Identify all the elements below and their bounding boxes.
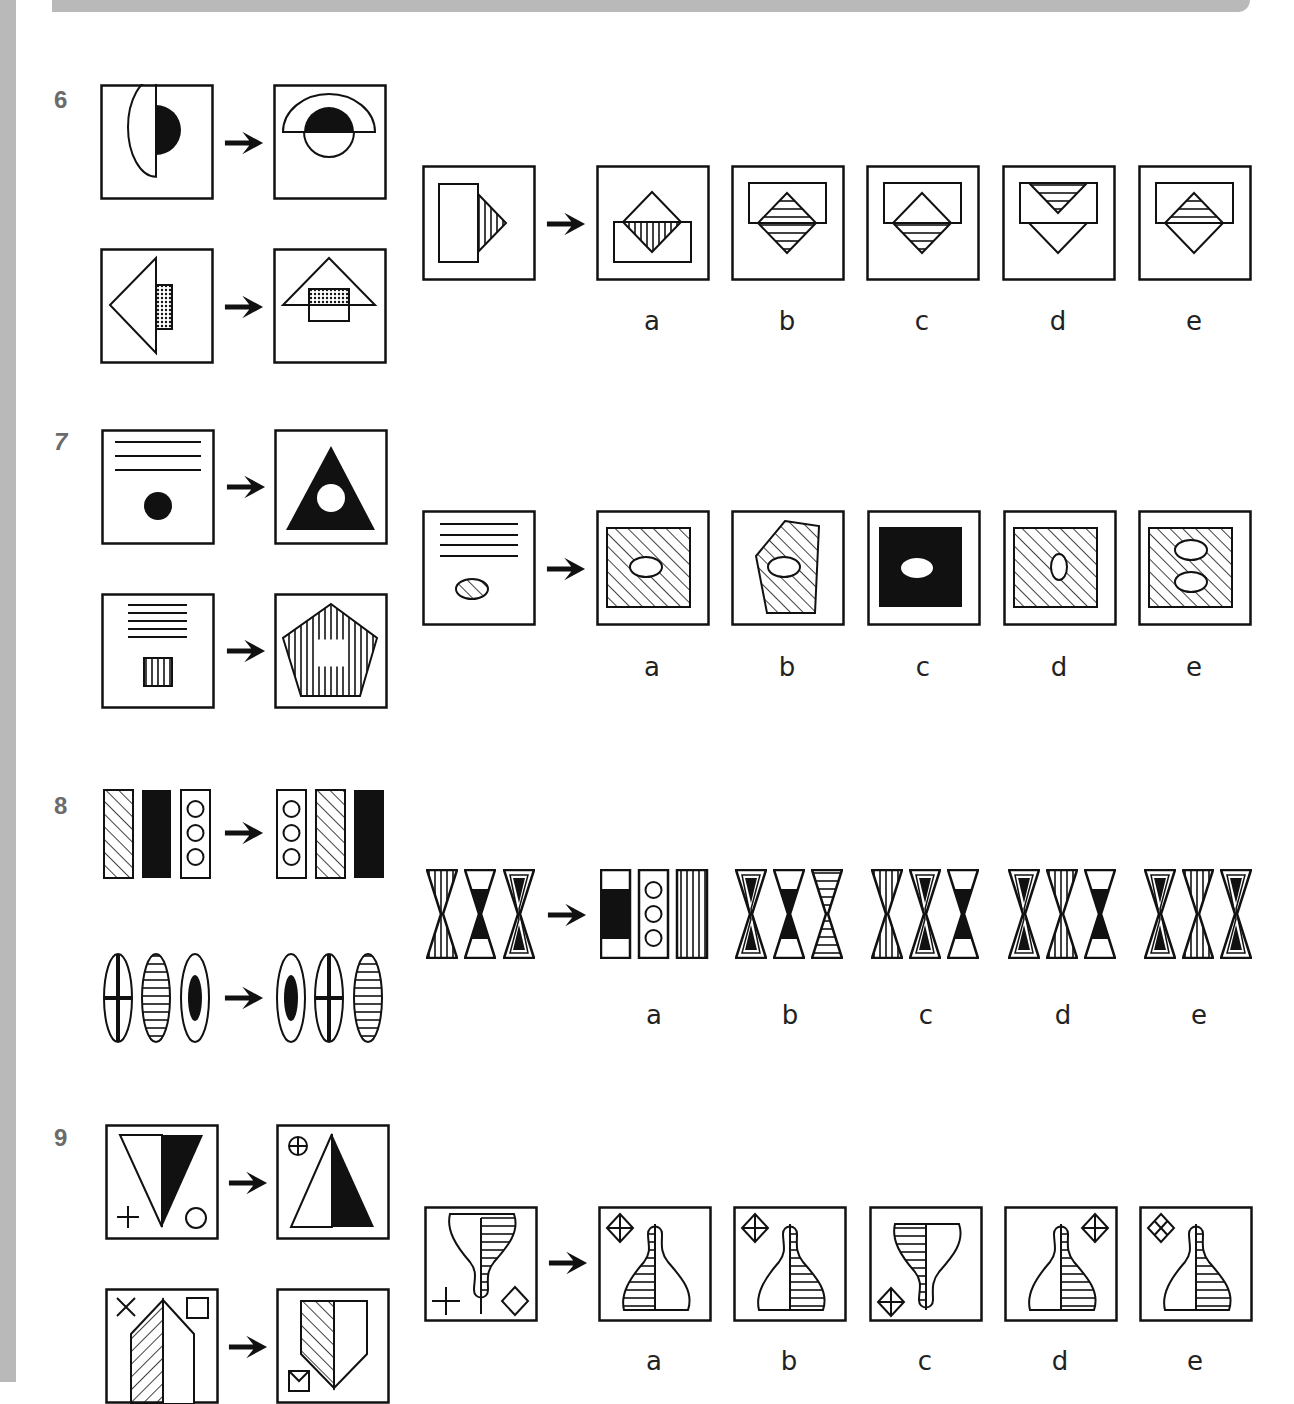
q7-option-d[interactable]: [1003, 510, 1117, 626]
arrow-icon: [226, 1334, 270, 1360]
option-label-e: e: [1138, 306, 1250, 336]
q7-example-2-output: [274, 593, 388, 709]
arrow-icon: [544, 211, 588, 237]
q8-problem-input: [425, 869, 537, 959]
q6-example-2-output: [273, 248, 387, 364]
arrow-icon: [224, 474, 268, 500]
arrow-icon: [222, 130, 266, 156]
option-label-e: e: [1139, 1346, 1251, 1376]
q9-option-e[interactable]: [1139, 1206, 1253, 1322]
q8-option-b[interactable]: [734, 869, 846, 959]
q8-option-a[interactable]: [600, 869, 712, 959]
q6-example-2-input: [100, 248, 214, 364]
q7-example-1-input: [101, 429, 215, 545]
question-number: 9: [54, 1124, 67, 1152]
option-label-e: e: [1138, 652, 1250, 682]
q9-example-1-input: [105, 1124, 219, 1240]
q6-option-b[interactable]: [731, 165, 845, 281]
option-label-a: a: [598, 1000, 710, 1030]
q7-option-a[interactable]: [596, 510, 710, 626]
q6-option-e[interactable]: [1138, 165, 1252, 281]
arrow-icon: [224, 638, 268, 664]
q9-example-1-output: [276, 1124, 390, 1240]
option-label-d: d: [1003, 652, 1115, 682]
option-label-b: b: [731, 306, 843, 336]
option-label-b: b: [731, 652, 843, 682]
header-bar: [52, 0, 1250, 12]
q6-problem-input: [422, 165, 536, 281]
option-label-c: c: [866, 306, 978, 336]
q9-example-2-input: [105, 1288, 219, 1404]
option-label-d: d: [1004, 1346, 1116, 1376]
arrow-icon: [545, 902, 589, 928]
q8-option-d[interactable]: [1007, 869, 1119, 959]
q8-option-c[interactable]: [870, 869, 982, 959]
q8-example-1-input: [103, 788, 215, 880]
option-label-d: d: [1007, 1000, 1119, 1030]
question-number: 7: [54, 428, 67, 456]
q6-example-1-output: [273, 84, 387, 200]
q7-option-c[interactable]: [867, 510, 981, 626]
option-label-c: c: [867, 652, 979, 682]
q7-example-1-output: [274, 429, 388, 545]
q7-problem-input: [422, 510, 536, 626]
q7-example-2-input: [101, 593, 215, 709]
q6-option-a[interactable]: [596, 165, 710, 281]
q6-example-1-input: [100, 84, 214, 200]
q8-example-2-output: [276, 952, 388, 1044]
arrow-icon: [222, 820, 266, 846]
option-label-b: b: [734, 1000, 846, 1030]
question-number: 6: [54, 86, 67, 114]
q6-option-c[interactable]: [866, 165, 980, 281]
q9-option-d[interactable]: [1004, 1206, 1118, 1322]
option-label-a: a: [598, 1346, 710, 1376]
option-label-a: a: [596, 652, 708, 682]
option-label-e: e: [1143, 1000, 1255, 1030]
option-label-d: d: [1002, 306, 1114, 336]
q6-option-d[interactable]: [1002, 165, 1116, 281]
q9-option-b[interactable]: [733, 1206, 847, 1322]
q8-example-1-output: [276, 788, 388, 880]
q7-option-b[interactable]: [731, 510, 845, 626]
q8-option-e[interactable]: [1143, 869, 1255, 959]
q9-example-2-output: [276, 1288, 390, 1404]
question-number: 8: [54, 792, 67, 820]
arrow-icon: [222, 294, 266, 320]
option-label-a: a: [596, 306, 708, 336]
q7-option-e[interactable]: [1138, 510, 1252, 626]
q9-problem-input: [424, 1206, 538, 1322]
page-edge-strip: [0, 0, 16, 1382]
arrow-icon: [546, 1250, 590, 1276]
option-label-c: c: [870, 1000, 982, 1030]
option-label-b: b: [733, 1346, 845, 1376]
q9-option-a[interactable]: [598, 1206, 712, 1322]
q8-example-2-input: [103, 952, 215, 1044]
arrow-icon: [222, 985, 266, 1011]
arrow-icon: [544, 556, 588, 582]
q9-option-c[interactable]: [869, 1206, 983, 1322]
arrow-icon: [226, 1170, 270, 1196]
option-label-c: c: [869, 1346, 981, 1376]
